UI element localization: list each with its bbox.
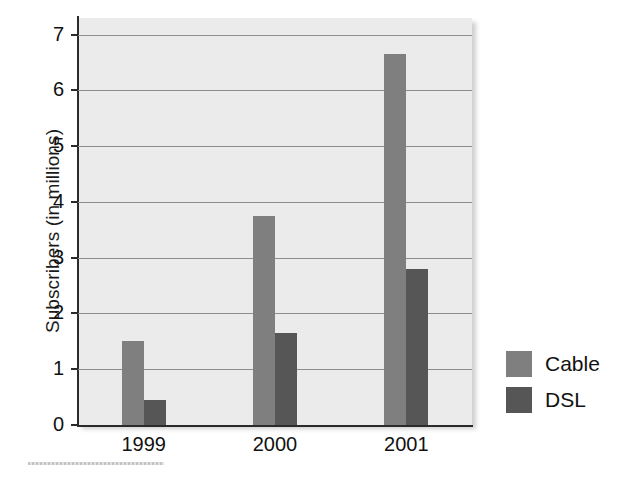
bar-cable-2000 — [253, 216, 275, 425]
y-tick-mark — [71, 145, 78, 147]
y-tick-label-wrap: 0 — [30, 414, 64, 434]
bar-cable-2001 — [384, 54, 406, 425]
x-tick-label-1999: 1999 — [99, 433, 189, 456]
y-tick-mark — [71, 368, 78, 370]
y-axis-title: Subscribers (in millions) — [42, 66, 64, 396]
y-tick-label: 6 — [30, 79, 64, 99]
y-tick-label-wrap: 2 — [30, 302, 64, 322]
legend-swatch-cable — [506, 351, 532, 377]
y-tick-label: 0 — [30, 414, 64, 434]
y-tick-label: 1 — [30, 358, 64, 378]
y-tick-mark — [71, 34, 78, 36]
y-tick-label-wrap: 1 — [30, 358, 64, 378]
legend-label-dsl: DSL — [545, 388, 586, 412]
x-tick-label-2001: 2001 — [361, 433, 451, 456]
y-tick-label: 2 — [30, 302, 64, 322]
y-tick-label: 7 — [30, 24, 64, 44]
y-tick-label-wrap: 5 — [30, 135, 64, 155]
y-tick-label: 5 — [30, 135, 64, 155]
y-tick-label-wrap: 7 — [30, 24, 64, 44]
bars-layer — [78, 18, 472, 425]
y-tick-label-wrap: 3 — [30, 247, 64, 267]
y-tick-mark — [71, 89, 78, 91]
y-tick-label-wrap: 4 — [30, 191, 64, 211]
legend-label-cable: Cable — [545, 352, 600, 376]
x-tick-label-2000: 2000 — [230, 433, 320, 456]
x-axis-line — [77, 425, 473, 427]
scan-artifact-line — [28, 462, 164, 465]
bar-chart-figure: Subscribers (in millions) 01234567 19992… — [0, 0, 628, 481]
bar-dsl-1999 — [144, 400, 166, 425]
bar-cable-1999 — [122, 341, 144, 425]
legend-item-dsl: DSL — [506, 382, 600, 418]
y-tick-label-wrap: 6 — [30, 79, 64, 99]
y-tick-mark — [71, 201, 78, 203]
legend-item-cable: Cable — [506, 346, 600, 382]
bar-dsl-2000 — [275, 333, 297, 425]
y-tick-label: 3 — [30, 247, 64, 267]
chart-legend: CableDSL — [506, 346, 600, 418]
y-tick-mark — [71, 257, 78, 259]
y-tick-mark — [71, 424, 78, 426]
y-tick-mark — [71, 312, 78, 314]
legend-swatch-dsl — [506, 387, 532, 413]
y-tick-label: 4 — [30, 191, 64, 211]
bar-dsl-2001 — [406, 269, 428, 425]
